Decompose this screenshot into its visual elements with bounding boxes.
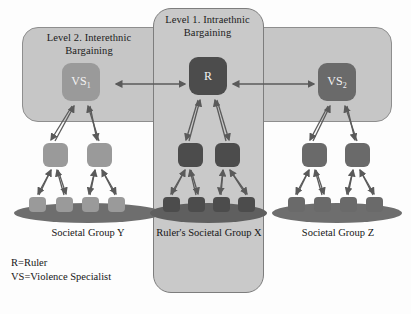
node-group-x-leaf-1[interactable] bbox=[163, 197, 180, 212]
node-ruler[interactable]: R bbox=[189, 57, 227, 95]
legend-line-ruler: R=Ruler bbox=[11, 256, 111, 270]
node-violence-specialist-1[interactable]: VS1 bbox=[62, 63, 100, 101]
node-group-y-leaf-2[interactable] bbox=[56, 197, 73, 212]
node-group-x-leaf-4[interactable] bbox=[238, 197, 255, 212]
legend-line-violence-specialist: VS=Violence Specialist bbox=[11, 270, 111, 284]
node-group-y-mid-1[interactable] bbox=[43, 143, 68, 167]
node-group-x-leaf-2[interactable] bbox=[188, 197, 205, 212]
node-group-x-leaf-3[interactable] bbox=[213, 197, 230, 212]
panel-level2-title: Level 2. Interethnic Bargaining bbox=[27, 32, 151, 58]
node-group-z-mid-1[interactable] bbox=[302, 143, 327, 167]
node-group-z-mid-2[interactable] bbox=[345, 143, 370, 167]
node-violence-specialist-2[interactable]: VS2 bbox=[318, 63, 356, 101]
diagram-canvas: Level 2. Interethnic Bargaining Level 1.… bbox=[0, 0, 411, 314]
legend: R=Ruler VS=Violence Specialist bbox=[11, 256, 111, 284]
node-group-z-leaf-1[interactable] bbox=[288, 197, 305, 212]
node-group-y-leaf-3[interactable] bbox=[82, 197, 99, 212]
node-group-y-mid-2[interactable] bbox=[87, 143, 112, 167]
node-label-vs2: VS2 bbox=[327, 74, 346, 90]
caption-societal-group-y: Societal Group Y bbox=[8, 227, 168, 238]
node-group-z-leaf-2[interactable] bbox=[314, 197, 331, 212]
node-group-x-mid-1[interactable] bbox=[178, 143, 203, 167]
node-label-vs1: VS1 bbox=[71, 74, 90, 90]
node-group-x-mid-2[interactable] bbox=[215, 143, 240, 167]
node-group-y-leaf-1[interactable] bbox=[29, 197, 46, 212]
panel-level1-title: Level 1. Intraethnic Bargaining bbox=[157, 14, 258, 40]
caption-societal-group-z: Societal Group Z bbox=[268, 227, 408, 238]
panel-level1-intraethnic bbox=[153, 8, 264, 293]
node-group-y-leaf-4[interactable] bbox=[108, 197, 125, 212]
node-label-ruler: R bbox=[204, 69, 212, 84]
node-group-z-leaf-4[interactable] bbox=[366, 197, 383, 212]
caption-rulers-societal-group-x: Ruler's Societal Group X bbox=[150, 227, 268, 238]
node-group-z-leaf-3[interactable] bbox=[340, 197, 357, 212]
